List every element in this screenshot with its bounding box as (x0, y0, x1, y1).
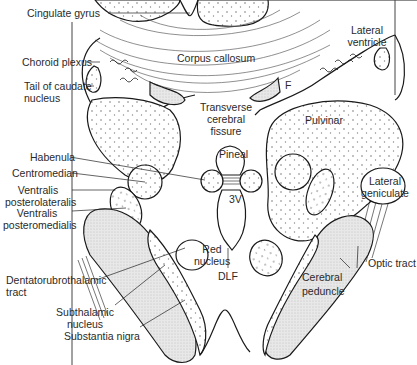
red-nucleus-right (245, 236, 287, 281)
label-habenula: Habenula (30, 151, 75, 163)
centromedian-right (275, 154, 311, 190)
label-red-nucleus: Red nucleus (194, 243, 230, 267)
label-cerebral-peduncle: Cerebral peduncle (302, 270, 345, 298)
label-choroid-plexus: Choroid plexus (22, 56, 92, 68)
label-pineal: Pineal (219, 148, 248, 160)
cingulate-gyrus-left (95, 0, 180, 21)
label-pulvinar: Pulvinar (305, 114, 343, 126)
label-ventralis-posteromedialis: Ventralis posteromedialis (3, 207, 71, 231)
label-lateral-ventricle: Lateral ventricle (342, 24, 392, 48)
cingulate-gyrus-right (197, 0, 268, 26)
label-optic-tract: Optic tract (368, 257, 416, 269)
label-dlf: DLF (218, 270, 238, 282)
fornix-left (150, 82, 185, 105)
label-third-ventricle: 3V (229, 193, 242, 205)
label-transverse-cerebral-fissure: Transverse cerebral fissure (196, 101, 256, 137)
tail-caudate-right (374, 48, 389, 70)
label-tail-of-caudate: Tail of caudate nucleus (24, 80, 92, 104)
label-dentatorubrothalamic-tract: Dentatorubrothalamic tract (6, 274, 106, 298)
label-cingulate-gyrus: Cingulate gyrus (27, 7, 100, 19)
label-subthalamic-nucleus: Subthalamic nucleus (55, 306, 115, 330)
label-centromedian: Centromedian (12, 167, 78, 179)
label-ventralis-posterolateralis: Ventralis posterolateralis (5, 184, 71, 208)
habenula-left (201, 170, 223, 192)
label-lateral-geniculate: Lateral geniculate (358, 175, 412, 199)
label-corpus-callosum: Corpus callosum (177, 52, 255, 64)
label-substantia-nigra: Substantia nigra (64, 330, 140, 342)
label-fornix: F (285, 79, 291, 91)
habenula-right (240, 170, 262, 192)
fornix-right (250, 78, 280, 101)
diagram-canvas: Cingulate gyrus Corpus callosum Lateral … (0, 0, 417, 365)
